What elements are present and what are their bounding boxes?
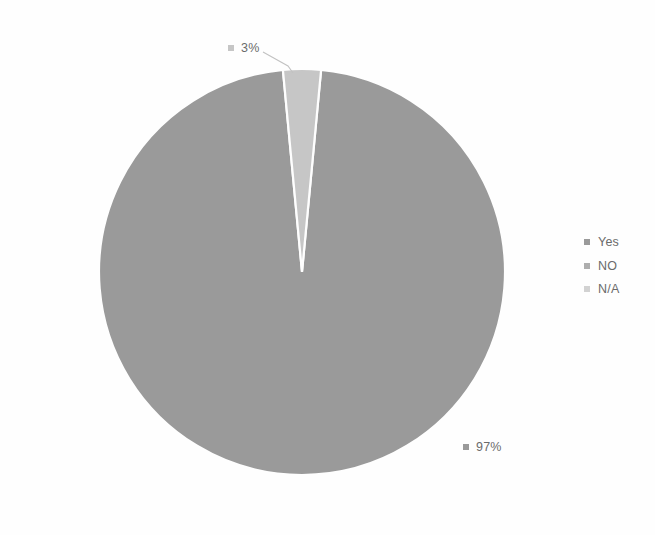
legend-item-yes[interactable]: Yes [584, 236, 619, 249]
pie-chart-graphic [0, 0, 655, 535]
chart-legend: Yes NO N/A [584, 236, 619, 296]
data-label-large-slice: 97% [463, 440, 502, 454]
legend-item-na[interactable]: N/A [584, 283, 619, 296]
data-label-large-text: 97% [476, 440, 502, 454]
legend-label-no: NO [598, 260, 617, 273]
legend-label-na: N/A [598, 283, 619, 296]
pie-chart-container: 3% 97% Yes NO N/A [0, 0, 655, 535]
legend-label-yes: Yes [598, 236, 619, 249]
legend-swatch-na [584, 286, 590, 292]
legend-swatch-yes [584, 239, 590, 245]
legend-item-no[interactable]: NO [584, 260, 619, 273]
data-label-small-swatch [228, 45, 234, 51]
legend-swatch-no [584, 263, 590, 269]
data-label-small-text: 3% [241, 41, 259, 55]
data-label-large-swatch [463, 444, 469, 450]
data-label-small-slice: 3% [228, 41, 259, 55]
